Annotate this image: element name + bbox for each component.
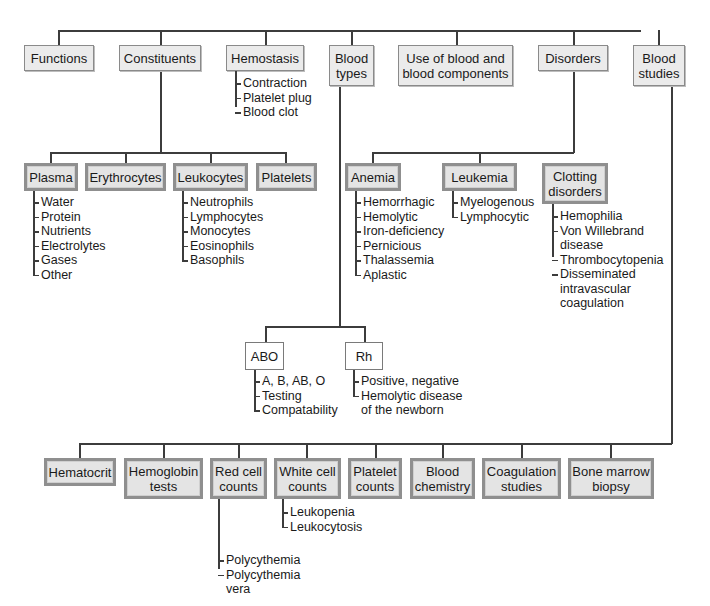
list-item: Lymphocytic: [452, 210, 534, 225]
node-hematocrit: Hematocrit: [44, 458, 116, 486]
list-item: Myelogenous: [452, 195, 534, 210]
node-platelets: Platelets: [256, 163, 317, 191]
node-red-cell-counts: Red cell counts: [210, 458, 267, 499]
list-item: Electrolytes: [33, 239, 106, 254]
list-item: Iron-deficiency: [355, 224, 444, 239]
node-blood-chemistry: Blood chemistry: [410, 458, 475, 499]
connector-line: [58, 30, 641, 32]
list-item: Thrombocytopenia: [552, 253, 664, 268]
list-item: Hemophilia: [552, 209, 664, 224]
list-item: Aplastic: [355, 268, 444, 283]
list-item: Gases: [33, 253, 106, 268]
connector-line: [339, 86, 341, 326]
connector-line: [238, 443, 240, 458]
list-item: Testing: [254, 389, 338, 404]
connector-line: [160, 30, 162, 45]
blood-concept-map: Functions Constituents Hemostasis Blood …: [0, 0, 710, 606]
hemostasis-list: Contraction Platelet plug Blood clot: [235, 76, 312, 120]
list-item: Thalassemia: [355, 253, 444, 268]
node-white-cell-counts: White cell counts: [274, 458, 341, 499]
leukemia-list: Myelogenous Lymphocytic: [452, 195, 534, 224]
list-item: Eosinophils: [182, 239, 263, 254]
connector-line: [79, 443, 81, 458]
list-item: Basophils: [182, 253, 263, 268]
list-item: A, B, AB, O: [254, 374, 338, 389]
connector-line: [265, 30, 267, 45]
list-item: Hemolytic: [355, 210, 444, 225]
connector-line: [573, 70, 575, 153]
list-item: Hemorrhagic: [355, 195, 444, 210]
list-item: Compatability: [254, 403, 338, 418]
node-leukemia: Leukemia: [442, 163, 517, 191]
connector-line: [265, 326, 267, 342]
connector-line: [521, 443, 523, 458]
node-anemia: Anemia: [345, 163, 401, 191]
list-item: Disseminated intravascular coagulation: [552, 267, 664, 311]
connector-line: [658, 30, 660, 45]
node-functions: Functions: [24, 45, 94, 71]
connector-line: [351, 30, 353, 45]
connector-line: [265, 326, 365, 328]
node-hemostasis: Hemostasis: [226, 45, 304, 71]
node-plasma: Plasma: [24, 163, 78, 191]
connector-line: [671, 86, 673, 444]
connector-line: [50, 152, 286, 154]
node-abo: ABO: [245, 342, 284, 370]
list-item: Contraction: [235, 76, 312, 91]
list-item: Pernicious: [355, 239, 444, 254]
node-blood-types: Blood types: [329, 45, 374, 86]
list-item: Monocytes: [182, 224, 263, 239]
node-disorders: Disorders: [538, 45, 608, 71]
plasma-list: Water Protein Nutrients Electrolytes Gas…: [33, 195, 106, 282]
white-cell-list: Leukopenia Leukocytosis: [282, 505, 362, 534]
connector-line: [306, 443, 308, 458]
list-item: Polycythemia vera: [218, 568, 300, 597]
anemia-list: Hemorrhagic Hemolytic Iron-deficiency Pe…: [355, 195, 444, 282]
list-item: Leukocytosis: [282, 520, 362, 535]
list-item: Water: [33, 195, 106, 210]
abo-list: A, B, AB, O Testing Compatability: [254, 374, 338, 418]
list-item: Neutrophils: [182, 195, 263, 210]
connector-line: [442, 443, 444, 458]
leukocytes-list: Neutrophils Lymphocytes Monocytes Eosino…: [182, 195, 263, 268]
red-cell-list: Polycythemia Polycythemia vera: [218, 553, 300, 597]
node-bone-marrow-biopsy: Bone marrow biopsy: [568, 458, 654, 499]
node-coagulation-studies: Coagulation studies: [482, 458, 561, 499]
node-blood-studies: Blood studies: [633, 45, 685, 86]
connector-line: [372, 152, 574, 154]
list-item: Von Willebrand disease: [552, 224, 664, 253]
list-item: Positive, negative: [353, 374, 462, 389]
list-item: Polycythemia: [218, 553, 300, 568]
connector-line: [364, 326, 366, 342]
connector-line: [160, 70, 162, 153]
node-constituents: Constituents: [119, 45, 201, 71]
node-clotting-disorders: Clotting disorders: [542, 163, 608, 204]
rh-list: Positive, negative Hemolytic disease of …: [353, 374, 462, 418]
list-item: Blood clot: [235, 105, 312, 120]
list-item: Platelet plug: [235, 91, 312, 106]
node-leukocytes: Leukocytes: [173, 163, 248, 191]
node-platelet-counts: Platelet counts: [348, 458, 402, 499]
connector-line: [375, 443, 377, 458]
node-rh: Rh: [345, 342, 383, 370]
list-item: Lymphocytes: [182, 210, 263, 225]
list-item: Leukopenia: [282, 505, 362, 520]
node-hemoglobin-tests: Hemoglobin tests: [124, 458, 203, 499]
node-erythrocytes: Erythrocytes: [85, 163, 166, 191]
connector-line: [573, 30, 575, 45]
list-item: Other: [33, 268, 106, 283]
clotting-disorders-list: Hemophilia Von Willebrand disease Thromb…: [552, 209, 664, 311]
list-item: Hemolytic disease of the newborn: [353, 389, 462, 418]
list-item: Protein: [33, 210, 106, 225]
node-use-of-blood: Use of blood and blood components: [398, 45, 513, 86]
list-item: Nutrients: [33, 224, 106, 239]
connector-line: [456, 30, 458, 45]
connector-line: [58, 30, 60, 45]
connector-line: [163, 443, 165, 458]
connector-line: [610, 443, 612, 458]
